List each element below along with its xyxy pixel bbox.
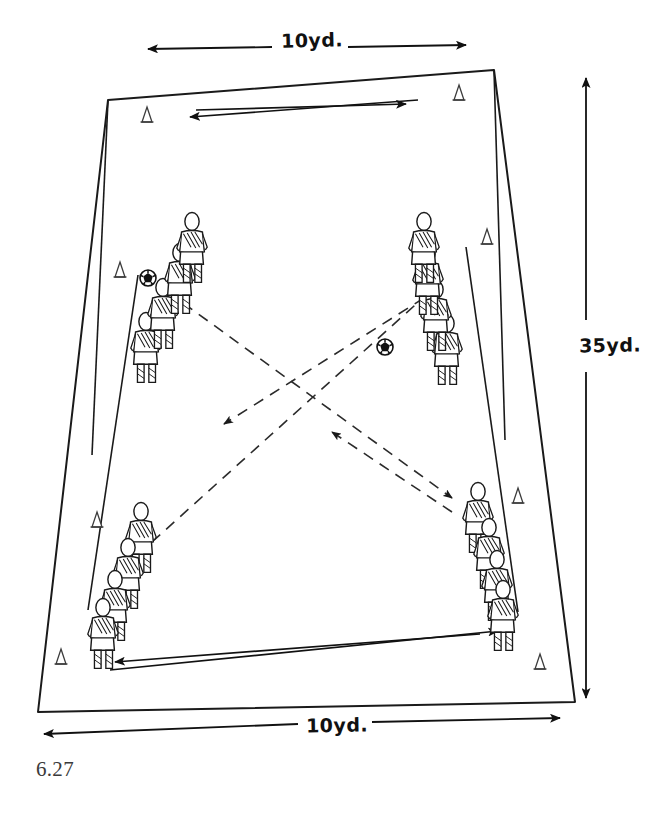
dim-bottom-right-arrow <box>372 718 560 722</box>
pass-top-left-to-bottom-right <box>168 292 452 498</box>
dashed-pass-arrows <box>152 288 452 542</box>
cone-left-upper <box>114 262 127 277</box>
player-group-bottom-right <box>463 482 518 650</box>
dim-top-left-arrow <box>148 47 272 49</box>
bottom-run-right <box>110 631 498 670</box>
pass-bottom-right-to-top-left <box>332 432 452 512</box>
ball-center <box>377 339 393 355</box>
drill-diagram <box>0 0 653 816</box>
cone-top-left <box>141 107 154 122</box>
player-group-top-right <box>409 212 462 384</box>
solid-run-arrows <box>110 100 498 670</box>
cone-top-right <box>453 85 466 100</box>
dimension-label-right: 35yd. <box>576 333 645 356</box>
dim-bottom-left-arrow <box>44 724 298 734</box>
ball-top-left <box>140 270 156 286</box>
figure-caption: 6.27 <box>36 757 74 782</box>
pass-bottom-left-to-top-right <box>152 288 434 542</box>
cone-right-upper <box>481 229 494 244</box>
dimension-label-top: 10yd. <box>278 28 347 52</box>
cone-right-lower <box>512 488 525 503</box>
cone-bottom-right <box>534 654 547 669</box>
dim-top-right-arrow <box>348 45 466 47</box>
cone-bottom-left <box>55 649 68 664</box>
dimension-label-bottom: 10yd. <box>303 713 372 736</box>
player-group-top-left <box>131 212 207 382</box>
figure-container: 10yd. 35yd. 10yd. 6.27 <box>0 0 653 816</box>
